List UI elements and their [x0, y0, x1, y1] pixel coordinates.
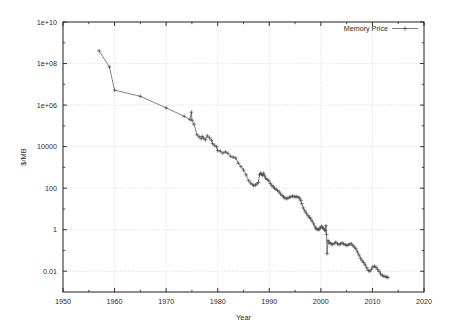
x-tick-label: 1960 — [107, 297, 123, 306]
memory-price-chart: 195019601970198019902000201020200.011100… — [0, 0, 453, 330]
y-tick-label: 10000 — [37, 142, 57, 151]
y-axis-title: $/MB — [19, 148, 28, 165]
x-axis-title: Year — [236, 313, 251, 322]
y-tick-label: 1 — [53, 225, 57, 234]
x-tick-label: 1950 — [55, 297, 71, 306]
x-tick-label: 2010 — [364, 297, 380, 306]
legend-label-memory-price: Memory Price — [344, 24, 388, 33]
y-tick-label: 0.01 — [43, 267, 57, 276]
x-tick-label: 2020 — [416, 297, 432, 306]
x-tick-label: 1970 — [158, 297, 174, 306]
y-tick-label: 1e+10 — [37, 18, 57, 27]
y-tick-label: 1e+06 — [37, 101, 57, 110]
x-tick-label: 1980 — [210, 297, 226, 306]
chart-canvas: 195019601970198019902000201020200.011100… — [0, 0, 453, 330]
chart-background — [0, 0, 453, 330]
x-tick-label: 2000 — [313, 297, 329, 306]
x-tick-label: 1990 — [261, 297, 277, 306]
y-tick-label: 1e+08 — [37, 59, 57, 68]
y-tick-label: 100 — [45, 184, 57, 193]
